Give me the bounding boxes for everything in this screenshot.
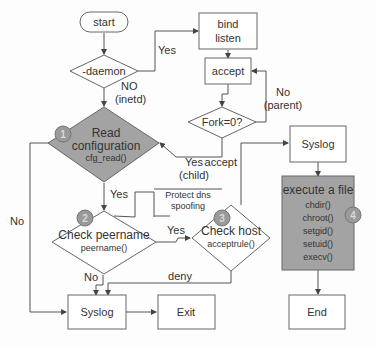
start-node: start bbox=[80, 12, 128, 32]
svg-text:execv(): execv() bbox=[303, 252, 333, 262]
svg-text:Fork=0?: Fork=0? bbox=[202, 116, 243, 128]
svg-text:2: 2 bbox=[82, 213, 88, 224]
svg-text:listen: listen bbox=[215, 32, 241, 44]
svg-text:(inetd): (inetd) bbox=[115, 93, 146, 105]
svg-text:-daemon: -daemon bbox=[82, 65, 125, 77]
svg-text:peername(): peername() bbox=[81, 243, 128, 253]
svg-text:setgid(): setgid() bbox=[303, 226, 333, 236]
accept-node: accept bbox=[205, 58, 251, 84]
badge-2: 2 bbox=[77, 210, 93, 226]
svg-text:Check host: Check host bbox=[201, 224, 262, 238]
svg-text:execute a file: execute a file bbox=[283, 183, 354, 197]
badge-1: 1 bbox=[55, 126, 71, 142]
check-peername-decision: Check peername peername() bbox=[52, 211, 156, 274]
flowchart-canvas: start -daemon bind listen accept Fork=0?… bbox=[0, 0, 375, 347]
svg-text:cfg_read(): cfg_read() bbox=[85, 153, 126, 163]
svg-text:Protect dns: Protect dns bbox=[165, 190, 211, 200]
svg-text:Exit: Exit bbox=[177, 306, 195, 318]
svg-text:Yes: Yes bbox=[185, 156, 203, 168]
svg-text:chroot(): chroot() bbox=[302, 213, 333, 223]
svg-text:3: 3 bbox=[219, 213, 225, 224]
check-host-decision: Check host acceptrule() bbox=[192, 205, 270, 271]
badge-4: 4 bbox=[345, 207, 361, 223]
svg-text:(parent): (parent) bbox=[264, 99, 303, 111]
badge-3: 3 bbox=[214, 210, 230, 226]
svg-text:Syslog: Syslog bbox=[80, 306, 113, 318]
svg-text:NO: NO bbox=[121, 80, 138, 92]
svg-text:deny: deny bbox=[168, 270, 192, 282]
svg-text:1: 1 bbox=[60, 129, 66, 140]
svg-text:configuration: configuration bbox=[72, 139, 141, 153]
svg-text:No: No bbox=[84, 271, 98, 283]
svg-text:setuid(): setuid() bbox=[303, 239, 333, 249]
svg-text:start: start bbox=[93, 16, 114, 28]
end-node: End bbox=[289, 295, 345, 329]
svg-text:spoofing: spoofing bbox=[171, 201, 205, 211]
svg-text:Read: Read bbox=[92, 126, 121, 140]
svg-text:accept: accept bbox=[205, 156, 237, 168]
execute-file-node: execute a file chdir() chroot() setgid()… bbox=[282, 176, 354, 270]
svg-text:No: No bbox=[276, 86, 290, 98]
protect-dns-note: Protect dns spoofing bbox=[154, 189, 222, 216]
svg-text:Syslog: Syslog bbox=[301, 138, 334, 150]
svg-text:accept: accept bbox=[212, 65, 244, 77]
exit-node: Exit bbox=[158, 295, 215, 329]
svg-text:4: 4 bbox=[350, 210, 356, 221]
svg-text:Yes: Yes bbox=[158, 44, 176, 56]
svg-text:End: End bbox=[307, 306, 327, 318]
svg-text:Yes: Yes bbox=[110, 188, 128, 200]
svg-text:chdir(): chdir() bbox=[305, 200, 331, 210]
syslog-bottom-node: Syslog bbox=[68, 295, 126, 329]
syslog-top-node: Syslog bbox=[290, 126, 346, 162]
read-config-decision: Read configuration cfg_read() bbox=[48, 107, 159, 182]
svg-text:Check peername: Check peername bbox=[58, 228, 150, 242]
svg-text:Yes: Yes bbox=[167, 224, 185, 236]
fork-decision: Fork=0? bbox=[188, 107, 256, 138]
svg-text:(child): (child) bbox=[179, 169, 209, 181]
svg-text:No: No bbox=[10, 215, 24, 227]
svg-text:bind: bind bbox=[218, 18, 239, 30]
svg-text:acceptrule(): acceptrule() bbox=[207, 239, 255, 249]
bind-listen-node: bind listen bbox=[199, 13, 257, 49]
